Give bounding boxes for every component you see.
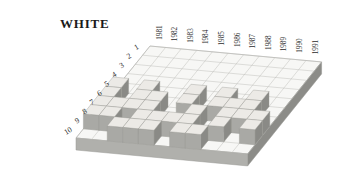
year-tick-label: 1983 (187, 28, 195, 43)
year-tick-label: 1988 (265, 35, 273, 50)
block-front-face (107, 126, 123, 142)
block-front-face (170, 132, 186, 148)
block-front-face (138, 129, 154, 145)
block-front-face (208, 125, 224, 141)
block-front-face (123, 127, 139, 143)
row-tick-label: 9 (73, 116, 81, 126)
row-tick-label: 1 (132, 42, 140, 52)
white-3d-grid-chart: WHITE 1981198219831984198519861987198819… (0, 0, 361, 183)
year-tick-label: 1987 (249, 34, 257, 49)
block-front-face (239, 128, 255, 144)
year-tick-label: 1985 (218, 31, 226, 46)
year-tick-label: 1982 (171, 26, 179, 41)
year-tick-label: 1981 (156, 25, 164, 40)
chart-title-group: WHITE (60, 16, 110, 31)
year-tick-label: 1984 (202, 29, 210, 44)
year-tick-label: 1986 (234, 32, 242, 47)
block-front-face (185, 133, 201, 149)
year-tick-label: 1990 (296, 38, 304, 53)
page-title: WHITE (60, 16, 110, 31)
year-tick-label: 1991 (312, 39, 320, 54)
year-tick-label: 1989 (280, 37, 288, 52)
block-front-face (83, 114, 99, 130)
row-tick-label: 3 (118, 61, 126, 71)
row-tick-label: 4 (110, 70, 118, 80)
row-tick-label: 2 (125, 51, 133, 61)
row-tick-label: 10 (62, 125, 73, 137)
